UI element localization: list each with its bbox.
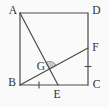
label-D: D	[92, 4, 100, 16]
figure-canvas: ADBCEFG	[0, 0, 109, 107]
label-B: B	[8, 76, 16, 88]
label-E: E	[53, 88, 60, 100]
geometry-figure: ADBCEFG	[0, 0, 109, 107]
label-A: A	[9, 4, 18, 16]
cevian-BF	[20, 48, 88, 85]
label-G: G	[37, 60, 45, 72]
label-F: F	[92, 41, 98, 53]
label-C: C	[93, 78, 101, 90]
